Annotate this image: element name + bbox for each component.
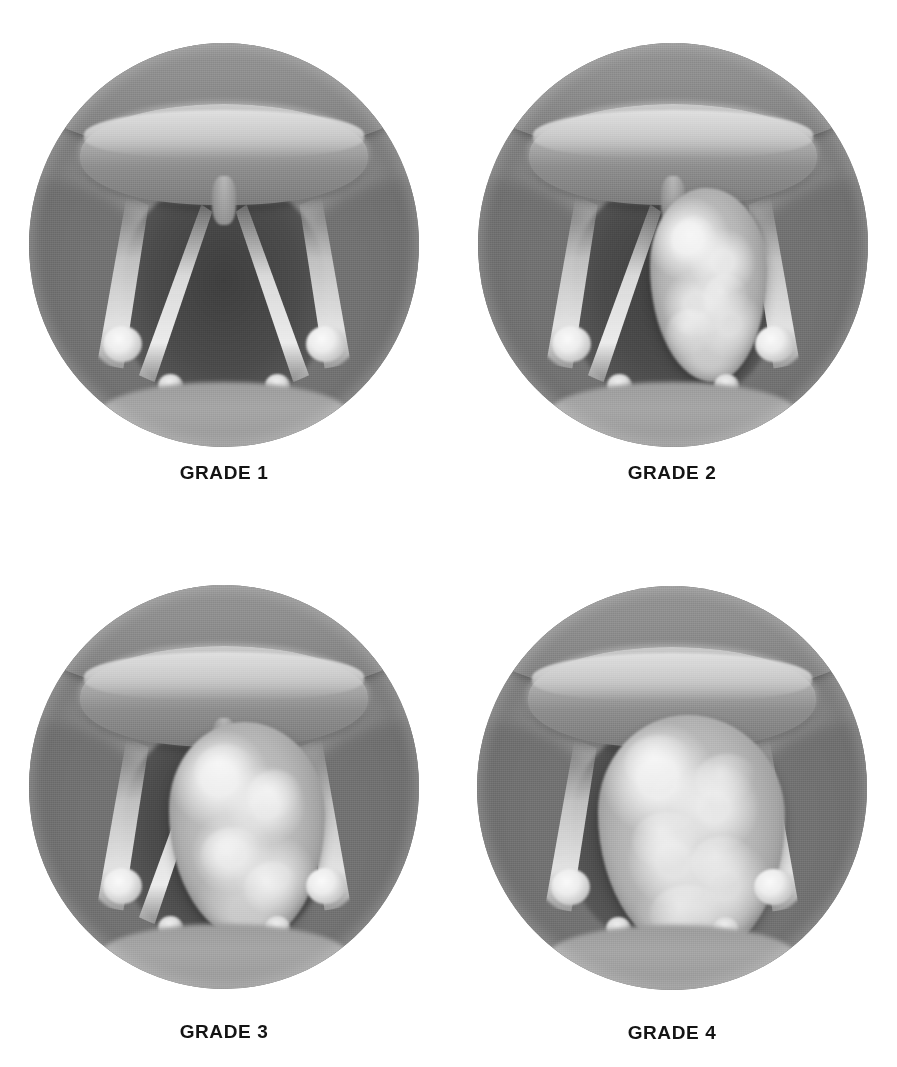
epiglottis-rim-highlight — [84, 652, 365, 700]
arytenoid-left — [103, 868, 142, 904]
panel-grade-4: GRADE 4 — [448, 534, 896, 1067]
arytenoid-left — [551, 869, 590, 905]
arytenoid-left — [552, 326, 591, 362]
endoscopic-view-grade-4 — [477, 586, 867, 990]
laryngoscopy-grade-figure: GRADE 1 G — [0, 0, 897, 1067]
mass-lobule — [247, 770, 303, 822]
caption-grade-3: GRADE 3 — [0, 1021, 448, 1043]
arytenoid-right — [754, 869, 793, 905]
mass-lobule — [244, 862, 300, 914]
caption-grade-2: GRADE 2 — [448, 462, 896, 484]
posterior-commissure — [99, 924, 349, 989]
posterior-commissure — [547, 925, 797, 990]
arytenoid-right — [306, 868, 345, 904]
epiglottis-rim-highlight — [84, 110, 365, 158]
mass-lobule — [624, 735, 695, 793]
arytenoid-right — [306, 326, 345, 362]
endoscopic-view-grade-1 — [29, 43, 419, 447]
mass-lobule — [695, 754, 759, 807]
mass-lobule — [703, 274, 747, 324]
posterior-commissure — [548, 382, 798, 447]
epiglottis-rim-highlight — [533, 110, 814, 158]
endoscopic-view-grade-2 — [478, 43, 868, 447]
panel-grade-2: GRADE 2 — [448, 0, 896, 533]
mass-lobule — [691, 836, 755, 889]
epiglottis-rim-highlight — [532, 653, 813, 701]
mass-lobule — [671, 216, 718, 270]
panel-grade-1: GRADE 1 — [0, 0, 448, 533]
panel-grade-3: GRADE 3 — [0, 533, 448, 1066]
arytenoid-left — [103, 326, 142, 362]
epiglottis-petiole — [212, 176, 235, 224]
posterior-commissure — [99, 382, 349, 447]
mass-lobule — [666, 309, 715, 359]
arytenoid-right — [755, 326, 794, 362]
endoscopic-view-grade-3 — [29, 585, 419, 989]
caption-grade-4: GRADE 4 — [448, 1022, 896, 1044]
caption-grade-1: GRADE 1 — [0, 462, 448, 484]
